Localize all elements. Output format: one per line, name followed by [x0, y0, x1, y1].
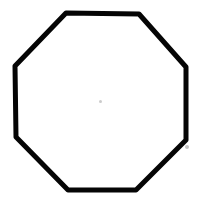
- center-speck-mark: [99, 100, 102, 103]
- image-canvas: [0, 0, 202, 205]
- corner-artifact-mark: [185, 145, 189, 149]
